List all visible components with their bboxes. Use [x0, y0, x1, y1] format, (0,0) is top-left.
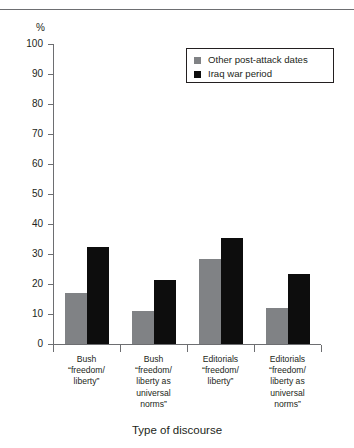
- legend-swatch-black-icon: [194, 71, 201, 78]
- category-label-0-line-2: liberty”: [53, 376, 120, 387]
- category-label-2-line-0: Editorials: [187, 354, 254, 365]
- category-label-1: Bush“freedom/liberty asuniversalnorms”: [120, 354, 187, 410]
- category-label-1-line-4: norms”: [120, 399, 187, 410]
- bar-3-iraq-war-period: [288, 274, 310, 345]
- x-axis-title: Type of discourse: [0, 424, 354, 436]
- category-label-3-line-0: Editorials: [254, 354, 321, 365]
- category-label-2-line-2: liberty”: [187, 376, 254, 387]
- legend-item-other-post-attack-dates: Other post-attack dates: [194, 53, 308, 67]
- category-label-0-line-0: Bush: [53, 354, 120, 365]
- bar-1-other-post-attack-dates: [132, 311, 154, 344]
- legend-label-1: Iraq war period: [208, 69, 272, 79]
- category-separator-3: [254, 345, 255, 352]
- category-separator-2: [187, 345, 188, 352]
- category-label-2-line-1: “freedom/: [187, 365, 254, 376]
- category-label-3-line-1: “freedom/: [254, 365, 321, 376]
- legend-label-0: Other post-attack dates: [208, 55, 308, 65]
- category-separator-1: [120, 345, 121, 352]
- category-label-0-line-1: “freedom/: [53, 365, 120, 376]
- bar-2-other-post-attack-dates: [199, 259, 221, 345]
- category-label-1-line-1: “freedom/: [120, 365, 187, 376]
- legend-swatch-gray-icon: [194, 57, 201, 64]
- category-label-2: Editorials“freedom/liberty”: [187, 354, 254, 388]
- category-label-3-line-3: universal: [254, 388, 321, 399]
- category-label-1-line-3: universal: [120, 388, 187, 399]
- category-label-1-line-0: Bush: [120, 354, 187, 365]
- category-separator-4: [321, 345, 322, 352]
- bar-1-iraq-war-period: [154, 280, 176, 345]
- category-label-3-line-2: liberty as: [254, 376, 321, 387]
- category-label-0: Bush“freedom/liberty”: [53, 354, 120, 388]
- category-label-3-line-4: norms”: [254, 399, 321, 410]
- bar-0-other-post-attack-dates: [65, 293, 87, 344]
- category-label-1-line-2: liberty as: [120, 376, 187, 387]
- bar-chart: % 1009080706050403020100 Bush“freedom/li…: [0, 0, 354, 448]
- category-label-3: Editorials“freedom/liberty asuniversalno…: [254, 354, 321, 410]
- bar-3-other-post-attack-dates: [266, 308, 288, 344]
- chart-legend: Other post-attack dates Iraq war period: [186, 48, 334, 83]
- bar-0-iraq-war-period: [87, 247, 109, 345]
- bar-2-iraq-war-period: [221, 238, 243, 345]
- category-separator-0: [53, 345, 54, 352]
- legend-item-iraq-war-period: Iraq war period: [194, 67, 272, 81]
